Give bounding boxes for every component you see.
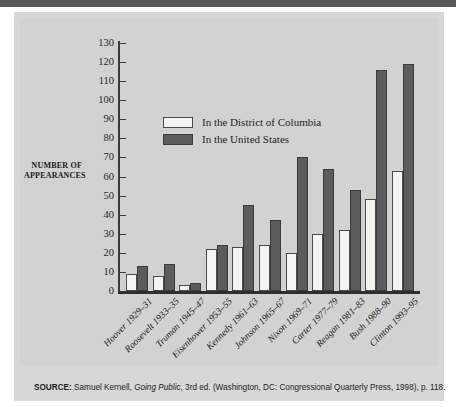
bar-us [164, 264, 175, 291]
bar-us [243, 205, 254, 291]
bar-us [217, 245, 228, 291]
legend-row: In the District of Columbia [163, 116, 321, 128]
bar-dc [312, 234, 323, 291]
bar-us [137, 266, 148, 291]
bar-us [403, 64, 414, 291]
plot-plate: NUMBER OF APPEARANCES 010203040506070809… [20, 18, 438, 366]
source-before-title: Samuel Kernell, [72, 383, 134, 392]
figure-page: NUMBER OF APPEARANCES 010203040506070809… [0, 0, 456, 407]
bar-dc [339, 230, 350, 291]
bar-dc [365, 199, 376, 291]
source-after-title: , 3rd ed. (Washington, DC: Congressional… [181, 383, 446, 392]
bar-us [297, 157, 308, 291]
top-banner [0, 0, 456, 7]
bar-us [376, 70, 387, 291]
source-note: SOURCE: Samuel Kernell, Going Public, 3r… [34, 383, 454, 393]
chart-legend: In the District of ColumbiaIn the United… [163, 116, 321, 150]
source-lead: SOURCE: [34, 383, 72, 392]
bar-us [270, 220, 281, 291]
bar-dc [206, 249, 217, 291]
bar-dc [259, 245, 270, 291]
x-axis-label: Clinton 1993–95 [368, 296, 420, 348]
legend-swatch-us [163, 134, 193, 145]
bar-dc [286, 253, 297, 291]
bar-us [323, 169, 334, 291]
legend-label: In the United States [202, 133, 289, 145]
legend-swatch-dc [163, 117, 193, 128]
bar-us [350, 190, 361, 291]
bar-dc [126, 274, 137, 291]
legend-row: In the United States [163, 133, 321, 145]
bar-dc [153, 276, 164, 291]
bar-dc [392, 171, 403, 291]
bar-dc [179, 285, 190, 291]
figure-panel: NUMBER OF APPEARANCES 010203040506070809… [14, 12, 444, 401]
source-title: Going Public [134, 383, 180, 392]
x-axis-labels: Hoover 1929–31Roosevelt 1933–35Truman 19… [20, 294, 438, 366]
plot-area: NUMBER OF APPEARANCES 010203040506070809… [20, 18, 438, 366]
bar-us [190, 283, 201, 291]
bar-dc [232, 247, 243, 291]
legend-label: In the District of Columbia [202, 116, 321, 128]
